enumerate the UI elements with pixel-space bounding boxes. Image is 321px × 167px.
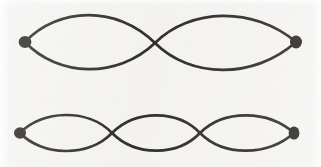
lower-wave-right-node-dot xyxy=(289,126,300,139)
lower-wave-crest-curve xyxy=(20,115,294,151)
upper-wave-group xyxy=(19,15,302,70)
wave-canvas xyxy=(0,0,321,167)
upper-wave-trough-curve xyxy=(25,16,296,69)
lower-wave-trough-curve xyxy=(20,115,294,151)
lower-wave-group xyxy=(14,115,299,151)
lower-wave-left-node-dot xyxy=(14,127,26,139)
upper-wave-left-node-dot xyxy=(19,36,32,48)
upper-wave-crest-curve xyxy=(25,15,296,70)
standing-wave-figure xyxy=(0,0,321,167)
upper-wave-right-node-dot xyxy=(290,36,302,49)
